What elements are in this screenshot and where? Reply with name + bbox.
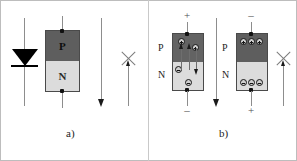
n-region-label: N <box>58 71 66 82</box>
caption-a: a) <box>66 128 75 139</box>
forward-current-shaft <box>216 18 217 103</box>
forward-top-sign: + <box>182 10 192 21</box>
current-arrow-down-shaft <box>101 18 102 103</box>
hole-carrier <box>240 38 247 45</box>
carrier-drift-head-down <box>194 69 198 75</box>
forward-n-label: N <box>158 70 165 80</box>
electron-carrier <box>256 79 263 86</box>
reverse-n-label: N <box>222 70 229 80</box>
panel-a: P N a) <box>0 0 148 161</box>
forward-current-head <box>213 99 219 107</box>
anode-contact <box>60 29 64 33</box>
cathode-contact <box>60 89 64 93</box>
forward-bottom-sign: – <box>182 105 192 116</box>
x-mark-icon <box>119 48 138 67</box>
pn-block: P N <box>45 30 80 92</box>
diode-triangle-icon <box>12 49 38 66</box>
blocked-arrow-shaft <box>128 66 129 106</box>
hole-carrier <box>256 38 263 45</box>
pn-block-bottom-lead <box>62 92 63 108</box>
carrier-drift-head-up <box>187 43 191 49</box>
reverse-p-label: P <box>222 43 228 53</box>
electron-carrier <box>185 79 192 86</box>
panel-b: + P N – <box>148 0 297 161</box>
forward-p-label: P <box>158 43 164 53</box>
diode-cathode-bar-icon <box>11 65 38 67</box>
reverse-bottom-sign: + <box>246 105 256 116</box>
reverse-top-sign: – <box>246 10 256 21</box>
figure-root: P N a) + <box>0 0 297 161</box>
current-arrow-down-head <box>98 99 104 107</box>
p-region: P <box>46 31 79 61</box>
forward-top-contact <box>185 32 189 36</box>
reverse-top-contact <box>249 32 253 36</box>
blocked-arrow-shaft-b <box>283 66 284 106</box>
electron-carrier <box>240 79 247 86</box>
carrier-drift-shaft <box>189 48 190 70</box>
caption-b: b) <box>219 128 228 139</box>
electron-carrier <box>248 79 255 86</box>
x-mark-icon <box>274 48 293 67</box>
carrier-drift-shaft <box>181 48 182 70</box>
n-region: N <box>46 61 79 91</box>
hole-carrier <box>248 38 255 45</box>
p-region-label: P <box>59 41 66 52</box>
carrier-drift-head-up <box>179 43 183 49</box>
